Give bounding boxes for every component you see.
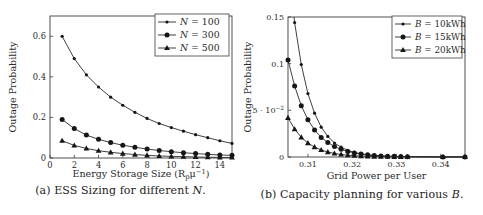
panel-b: 0.310.320.330.3405 · 10−20.10.15Grid Pow… (241, 0, 483, 215)
y-tick-label: 0.4 (33, 72, 46, 82)
y-tick-label: 0 (279, 153, 284, 162)
legend-label-1: B = 15kWh (414, 32, 466, 42)
caption-b-variable: B (452, 188, 460, 201)
x-tick-label: 0.33 (388, 160, 406, 169)
chart-a-svg: 0246810121400.20.40.6Energy Storage Size… (0, 0, 241, 215)
x-tick-label: 0.31 (299, 160, 317, 169)
y-tick-label: 0.15 (266, 13, 284, 22)
caption-b: (b) Capacity planning for various B. (241, 188, 483, 201)
legend-label-0: N = 100 (179, 16, 220, 27)
caption-b-suffix: . (460, 188, 464, 201)
y-axis-label: Outage Probability (7, 41, 18, 133)
y-tick-label: 0.6 (33, 31, 46, 41)
legend-label-0: B = 10kWh (414, 19, 466, 29)
y-tick-label: 0 (41, 153, 46, 163)
caption-a: (a) ESS Sizing for different N. (0, 184, 241, 197)
series-line-1 (288, 60, 465, 157)
y-tick-label: 0.1 (271, 60, 284, 69)
legend-label-2: N = 500 (179, 42, 220, 53)
x-tick-label: 14 (215, 160, 226, 170)
legend-label-2: B = 20kWh (414, 45, 466, 55)
caption-b-prefix: (b) Capacity planning for various (261, 188, 452, 201)
legend: N = 100N = 300N = 500 (155, 14, 229, 56)
x-axis-label: Grid Power per User (327, 170, 427, 181)
x-tick-label: 0 (47, 160, 52, 170)
series-markers-2 (285, 115, 468, 159)
x-tick-label: 0.34 (432, 160, 450, 169)
caption-a-suffix: . (202, 184, 206, 197)
legend: B = 10kWhB = 15kWhB = 20kWh (392, 16, 466, 58)
series-line-2 (288, 118, 465, 157)
legend-label-1: N = 300 (179, 29, 220, 40)
y-tick-label: 5 · 10−2 (253, 105, 285, 115)
y-tick-label: 0.2 (33, 112, 46, 122)
chart-b-svg: 0.310.320.330.3405 · 10−20.10.15Grid Pow… (241, 0, 483, 215)
two-panel-figure: 0246810121400.20.40.6Energy Storage Size… (0, 0, 483, 215)
x-axis-label: Energy Storage Size (Rpμ−1) (72, 168, 209, 181)
panel-a: 0246810121400.20.40.6Energy Storage Size… (0, 0, 241, 215)
caption-a-prefix: (a) ESS Sizing for different (35, 184, 192, 197)
y-axis-label: Outage Probability (242, 41, 253, 133)
x-tick-label: 0.32 (343, 160, 361, 169)
caption-a-variable: N (193, 184, 203, 197)
